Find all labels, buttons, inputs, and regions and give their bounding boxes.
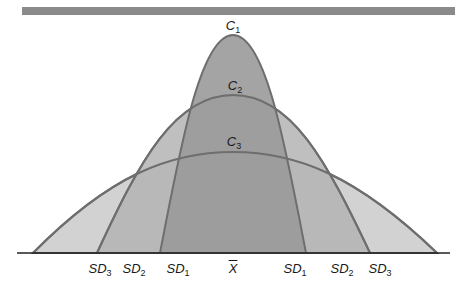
axis-label-sd1-right: SD1 xyxy=(283,262,306,278)
axis-label-sd2-right: SD2 xyxy=(330,262,353,278)
label-c2: C2 xyxy=(228,79,242,95)
axis-label-sd3-left: SD3 xyxy=(88,262,111,278)
axis-label-sd2-left: SD2 xyxy=(122,262,145,278)
axis-label-sd1-left: SD1 xyxy=(166,262,189,278)
axis-label-mean: X xyxy=(229,262,238,275)
label-c1: C1 xyxy=(226,19,240,35)
axis-label-sd3-right: SD3 xyxy=(368,262,391,278)
label-c3: C3 xyxy=(227,135,241,151)
